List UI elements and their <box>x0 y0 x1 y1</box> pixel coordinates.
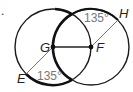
point-f <box>89 45 94 50</box>
arc-circle-g-top <box>55 9 72 14</box>
point-g <box>51 45 56 50</box>
problem-marker: . <box>1 4 4 18</box>
label-g: G <box>40 40 50 55</box>
two-circles-diagram: . G F E H 135° 135° <box>0 0 133 92</box>
label-h: H <box>119 6 129 21</box>
label-f: F <box>96 40 105 55</box>
label-e: E <box>17 71 26 86</box>
angle-bottom-label: 135° <box>37 69 62 83</box>
angle-top-label: 135° <box>84 11 109 25</box>
